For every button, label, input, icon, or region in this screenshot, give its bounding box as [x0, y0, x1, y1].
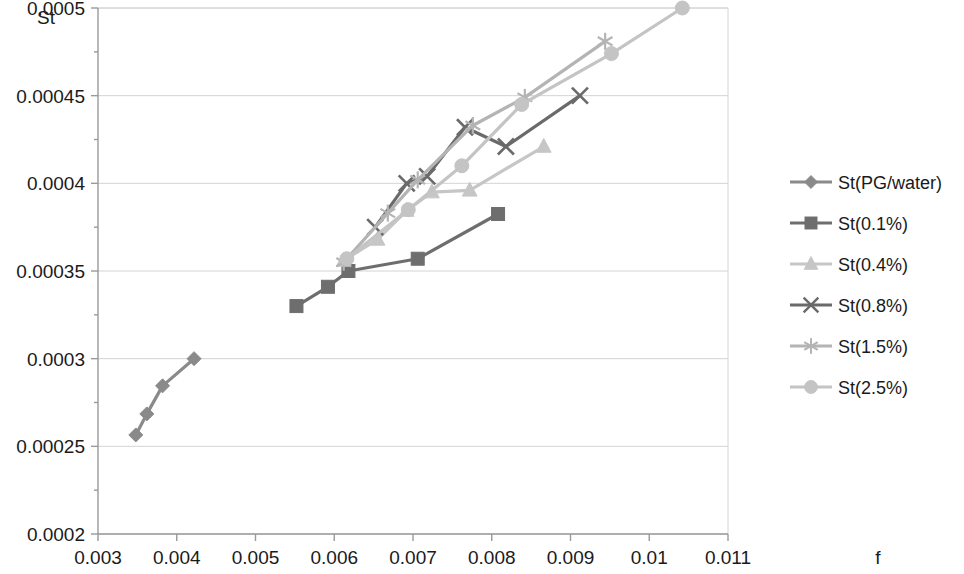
x-tick-label: 0.005	[232, 547, 280, 568]
data-point-marker	[140, 407, 154, 421]
legend-item-3[interactable]: St(0.4%)	[790, 255, 908, 275]
y-tick-label: 0.0005	[27, 0, 85, 19]
data-point-marker	[129, 428, 143, 442]
legend-item-label: St(1.5%)	[838, 337, 908, 357]
triangle-marker	[536, 139, 551, 153]
y-tick-label: 0.00025	[16, 436, 85, 457]
data-point-marker	[604, 47, 618, 61]
data-point-marker	[805, 217, 817, 229]
axes-group	[91, 8, 728, 541]
x-tick-label: 0.01	[631, 547, 668, 568]
legend-item-5[interactable]: St(1.5%)	[790, 337, 908, 357]
y-tick-label: 0.0003	[27, 349, 85, 370]
legend-group: St(PG/water)St(0.1%)St(0.4%)St(0.8%)St(1…	[790, 173, 942, 398]
data-point-marker	[675, 1, 689, 15]
diamond-marker	[140, 407, 154, 421]
legend-item-1[interactable]: St(PG/water)	[790, 173, 942, 193]
circle-marker	[340, 252, 354, 266]
x-axis-title: f	[875, 547, 881, 568]
legend-item-2[interactable]: St(0.1%)	[790, 214, 908, 234]
legend-item-label: St(0.1%)	[838, 214, 908, 234]
square-marker	[290, 300, 303, 313]
chart-canvas: 0.00020.000250.00030.000350.00040.000450…	[0, 0, 964, 574]
series-2	[290, 208, 505, 313]
series-3	[336, 139, 551, 267]
y-tick-label: 0.0004	[27, 173, 86, 194]
x-tick-label: 0.004	[153, 547, 201, 568]
data-point-marker	[290, 300, 303, 313]
x-tick-label: 0.003	[74, 547, 122, 568]
data-point-marker	[536, 139, 551, 153]
square-marker	[492, 208, 505, 221]
data-point-marker	[455, 159, 469, 173]
circle-marker	[805, 381, 818, 394]
data-point-marker	[411, 252, 424, 265]
data-point-marker	[321, 280, 334, 293]
legend-item-label: St(2.5%)	[838, 378, 908, 398]
x-tick-label: 0.006	[310, 547, 358, 568]
square-marker	[411, 252, 424, 265]
data-point-marker	[805, 381, 818, 394]
x-tick-label: 0.009	[547, 547, 595, 568]
gridlines-group	[98, 8, 728, 534]
legend-item-label: St(0.8%)	[838, 296, 908, 316]
x-tick-label: 0.007	[389, 547, 437, 568]
legend-item-6[interactable]: St(2.5%)	[790, 378, 908, 398]
square-marker	[805, 217, 817, 229]
y-tick-label: 0.0002	[27, 524, 85, 545]
series-group	[129, 1, 690, 442]
data-point-marker	[515, 97, 529, 111]
diamond-marker	[129, 428, 143, 442]
data-point-marker	[401, 203, 415, 217]
y-axis-title: St	[37, 7, 56, 28]
data-point-marker	[492, 208, 505, 221]
data-point-marker	[805, 176, 818, 189]
legend-item-label: St(PG/water)	[838, 173, 942, 193]
y-tick-label: 0.00035	[16, 261, 85, 282]
y-tick-label: 0.00045	[16, 86, 85, 107]
circle-marker	[675, 1, 689, 15]
series-4	[367, 88, 588, 236]
circle-marker	[401, 203, 415, 217]
circle-marker	[455, 159, 469, 173]
diamond-marker	[805, 176, 818, 189]
series-line	[136, 359, 194, 435]
square-marker	[321, 280, 334, 293]
data-point-marker	[340, 252, 354, 266]
tick-labels-group: 0.00020.000250.00030.000350.00040.000450…	[16, 0, 751, 568]
data-point-marker	[498, 139, 514, 155]
circle-marker	[604, 47, 618, 61]
legend-item-label: St(0.4%)	[838, 255, 908, 275]
legend-item-4[interactable]: St(0.8%)	[790, 296, 908, 316]
chart-figure: 0.00020.000250.00030.000350.00040.000450…	[0, 0, 964, 574]
series-1	[129, 352, 201, 442]
x-tick-label: 0.011	[705, 547, 751, 568]
circle-marker	[515, 97, 529, 111]
x-tick-label: 0.008	[468, 547, 516, 568]
